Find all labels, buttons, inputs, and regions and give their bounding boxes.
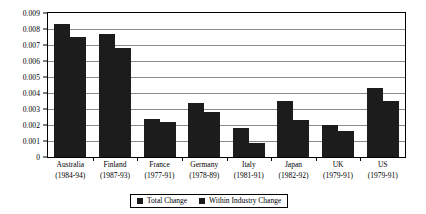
legend-item: Within Industry Change [199, 196, 281, 205]
bar-total-change [99, 34, 115, 157]
bar-group [322, 13, 354, 157]
x-axis-category-period: (1979-91) [360, 171, 405, 182]
legend-swatch-icon [137, 198, 143, 204]
x-axis-category-period: (1977-91) [137, 171, 182, 182]
bar-total-change [322, 125, 338, 157]
bar-within-industry-change [70, 37, 86, 157]
x-axis-category-name: Germany [182, 160, 227, 171]
x-axis-separator-tick [271, 158, 272, 161]
y-axis-tick-label: 0.003 [23, 105, 40, 114]
x-axis-category-period: (1978-89) [182, 171, 227, 182]
bar-group [233, 13, 265, 157]
x-axis-category-label: France(1977-91) [137, 160, 182, 181]
y-axis-tick-label: 0 [36, 153, 40, 162]
x-axis-category-period: (1987-93) [93, 171, 138, 182]
chart-legend: Total ChangeWithin Industry Change [130, 194, 288, 208]
x-axis-category-label: Japan(1982-92) [271, 160, 316, 181]
x-axis-separator-tick [316, 158, 317, 161]
bar-within-industry-change [383, 101, 399, 157]
x-axis-separator-tick [93, 158, 94, 161]
y-axis-tick-label: 0.001 [23, 137, 40, 146]
x-axis-category-label: Germany(1978-89) [182, 160, 227, 181]
x-axis-separator-tick [227, 158, 228, 161]
bar-group [54, 13, 86, 157]
legend-label: Within Industry Change [209, 196, 281, 205]
bar-group [367, 13, 399, 157]
bar-total-change [188, 103, 204, 157]
bar-within-industry-change [249, 143, 265, 157]
bar-total-change [54, 24, 70, 157]
x-axis-category-name: US [360, 160, 405, 171]
bar-within-industry-change [115, 48, 131, 157]
bar-total-change [367, 88, 383, 157]
x-axis-category-label: Italy(1981-91) [227, 160, 272, 181]
x-axis-separator-tick [182, 158, 183, 161]
y-axis-tick-label: 0.006 [23, 57, 40, 66]
bar-within-industry-change [204, 112, 220, 157]
x-axis-category-period: (1982-92) [271, 171, 316, 182]
x-axis-category-label: UK(1979-91) [316, 160, 361, 181]
bar-within-industry-change [160, 122, 176, 157]
x-axis-category-period: (1984-94) [48, 171, 93, 182]
bar-total-change [233, 128, 249, 157]
x-axis-category-name: Australia [48, 160, 93, 171]
legend-item: Total Change [137, 196, 187, 205]
legend-label: Total Change [147, 196, 187, 205]
x-axis-category-name: Japan [271, 160, 316, 171]
x-axis-category-name: Finland [93, 160, 138, 171]
bar-total-change [277, 101, 293, 157]
x-axis-category-label: Australia(1984-94) [48, 160, 93, 181]
x-axis-category-period: (1981-91) [227, 171, 272, 182]
x-axis-category-name: UK [316, 160, 361, 171]
y-axis-tick-label: 0.008 [23, 25, 40, 34]
bar-within-industry-change [293, 120, 309, 157]
bar-within-industry-change [338, 131, 354, 157]
y-axis-tick-label: 0.009 [23, 9, 40, 18]
y-axis-tick-label: 0.005 [23, 73, 40, 82]
x-axis-category-name: France [137, 160, 182, 171]
bar-group [277, 13, 309, 157]
bars-layer [48, 13, 405, 157]
x-axis-separator-tick [360, 158, 361, 161]
y-axis-tick-label: 0.004 [23, 89, 40, 98]
x-axis-category-label: Finland(1987-93) [93, 160, 138, 181]
y-axis-tick-label: 0.002 [23, 121, 40, 130]
x-axis-labels: Australia(1984-94)Finland(1987-93)France… [48, 160, 405, 190]
legend-swatch-icon [199, 198, 205, 204]
bar-total-change [144, 119, 160, 157]
bar-group [144, 13, 176, 157]
y-axis: 00.0010.0020.0030.0040.0050.0060.0070.00… [0, 12, 44, 158]
bar-group [188, 13, 220, 157]
x-axis-separator-tick [137, 158, 138, 161]
y-axis-tick-label: 0.007 [23, 41, 40, 50]
x-axis-category-name: Italy [227, 160, 272, 171]
bar-group [99, 13, 131, 157]
bar-chart: 00.0010.0020.0030.0040.0050.0060.0070.00… [0, 0, 426, 214]
x-axis-category-period: (1979-91) [316, 171, 361, 182]
x-axis-category-label: US(1979-91) [360, 160, 405, 181]
